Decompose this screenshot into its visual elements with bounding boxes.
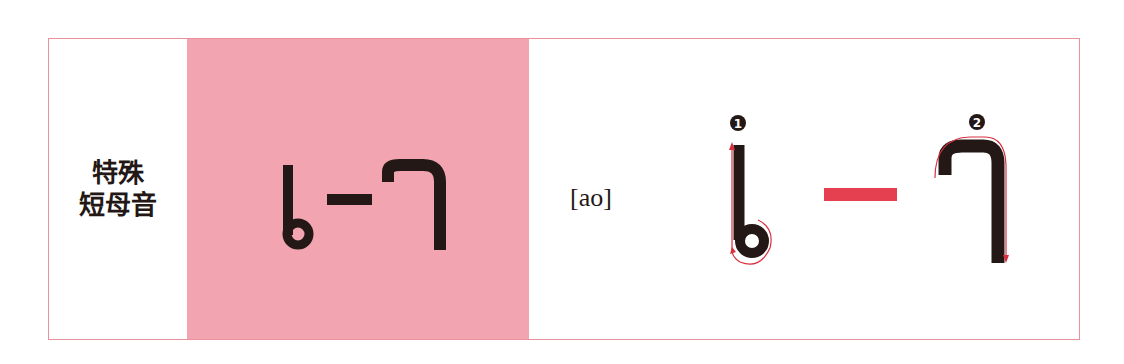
svg-text:1: 1 xyxy=(734,117,742,131)
stroke-number-2-icon: 2 xyxy=(969,114,985,130)
category-label: 特殊 短母音 xyxy=(49,39,187,339)
stroke-number-1-icon: 1 xyxy=(730,115,746,131)
svg-text:2: 2 xyxy=(973,116,981,130)
phonetic-label: [ao] xyxy=(570,183,612,213)
stroke-order-diagram: 1 2 xyxy=(700,100,1060,280)
category-label-line-2: 短母音 xyxy=(79,189,157,221)
category-label-line-1: 特殊 xyxy=(92,157,144,189)
dash-mark xyxy=(824,188,897,201)
letter-glyph xyxy=(240,120,480,270)
